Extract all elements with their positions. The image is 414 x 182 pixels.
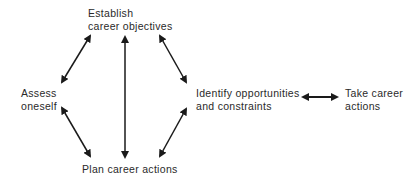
arrow-identify-plan [160,109,186,156]
node-establish-line1: Establish [88,7,172,20]
node-establish-line2: career objectives [88,20,172,33]
node-assess-line2: oneself [21,100,57,113]
arrow-assess-plan [62,108,90,156]
node-plan: Plan career actions [82,163,178,176]
node-establish: Establish career objectives [88,7,172,33]
node-assess-line1: Assess [21,87,57,100]
node-assess: Assess oneself [21,87,57,113]
arrow-establish-identify [160,36,186,82]
node-take-line1: Take career [345,87,403,100]
node-take-line2: actions [345,100,403,113]
node-take: Take career actions [345,87,403,113]
node-identify-line2: and constraints [196,100,300,113]
node-identify-line1: Identify opportunities [196,87,300,100]
arrow-assess-establish [62,36,90,82]
node-plan-line1: Plan career actions [82,163,178,176]
node-identify: Identify opportunities and constraints [196,87,300,113]
